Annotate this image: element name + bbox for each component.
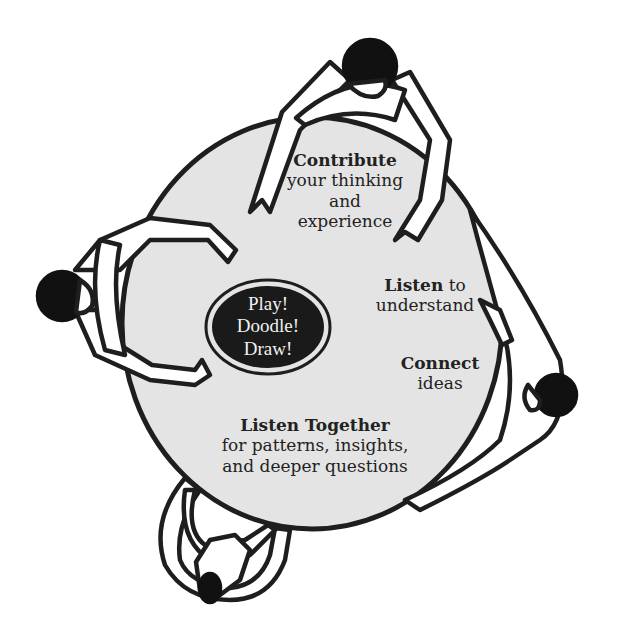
contribute-line-3: experience [270, 211, 420, 231]
listen-label: Listen to understand [360, 275, 490, 316]
listen-together-heading: Listen Together [240, 415, 390, 435]
contribute-line-2: and [270, 191, 420, 211]
center-label: Play! Doodle! Draw! [218, 293, 318, 360]
listen-together-label: Listen Together for patterns, insights, … [205, 415, 425, 476]
contribute-heading: Contribute [293, 150, 396, 170]
listen-together-line-2: and deeper questions [205, 456, 425, 476]
listen-inline: to [443, 275, 465, 295]
connect-heading: Connect [401, 353, 480, 373]
center-line-play: Play! [218, 293, 318, 315]
listen-heading: Listen [384, 275, 443, 295]
listen-line-1: understand [360, 295, 490, 315]
center-line-doodle: Doodle! [218, 315, 318, 337]
connect-line-1: ideas [385, 373, 495, 393]
contribute-label: Contribute your thinking and experience [270, 150, 420, 232]
listen-together-line-1: for patterns, insights, [205, 435, 425, 455]
connect-label: Connect ideas [385, 353, 495, 394]
conversation-table-diagram: Play! Doodle! Draw! Contribute your thin… [0, 0, 619, 626]
contribute-line-1: your thinking [270, 170, 420, 190]
center-line-draw: Draw! [218, 338, 318, 360]
